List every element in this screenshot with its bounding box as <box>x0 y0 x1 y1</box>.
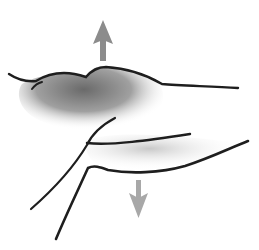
upper-shaded-region <box>19 66 163 133</box>
down-arrow-icon <box>129 180 148 218</box>
up-arrow-icon <box>93 20 113 61</box>
diagram-canvas <box>0 0 259 250</box>
tissue-illustration <box>0 0 259 250</box>
